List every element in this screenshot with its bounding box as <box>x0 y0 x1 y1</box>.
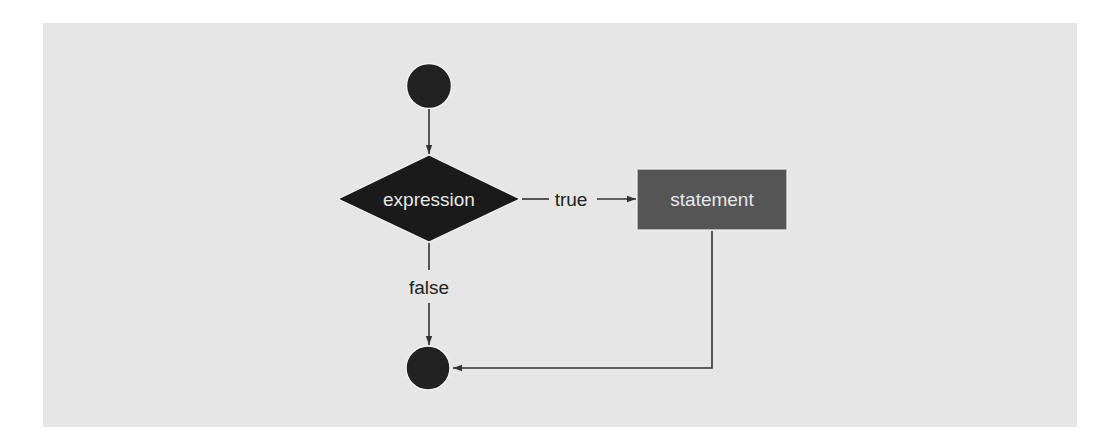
edge-true-label: true <box>555 189 588 210</box>
decision-label: expression <box>383 189 475 210</box>
edge-process-to-end <box>453 231 712 368</box>
start-circle-icon <box>407 64 452 109</box>
arrow-left-icon <box>453 231 712 368</box>
flowchart: expression true statement false <box>0 0 1110 440</box>
end-node <box>406 346 450 390</box>
process-node: statement <box>637 169 787 230</box>
edge-false: false <box>409 243 449 345</box>
edge-false-label: false <box>409 277 449 298</box>
decision-node: expression <box>338 155 520 242</box>
edge-true: true <box>522 189 636 210</box>
start-node <box>407 64 452 109</box>
process-label: statement <box>670 189 754 210</box>
end-circle-icon <box>406 346 450 390</box>
